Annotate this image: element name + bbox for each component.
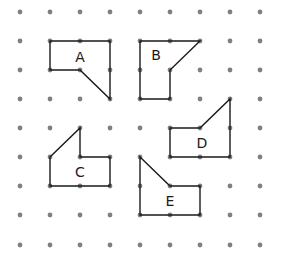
grid-dot xyxy=(258,10,263,15)
grid-dot xyxy=(228,10,233,15)
grid-dot xyxy=(138,10,143,15)
shape-label: B xyxy=(151,47,161,63)
grid-dot xyxy=(228,39,233,44)
grid-dot xyxy=(228,68,233,73)
shape-d: D xyxy=(170,99,230,157)
grid-dot xyxy=(78,97,83,102)
grid-dot xyxy=(48,213,53,218)
grid-dot xyxy=(48,126,53,131)
grid-dot xyxy=(198,10,203,15)
grid-dot xyxy=(168,10,173,15)
shape-a: A xyxy=(50,41,110,99)
grid-dot xyxy=(18,39,23,44)
grid-dot xyxy=(108,243,113,248)
grid-dot xyxy=(228,184,233,189)
grid-dot xyxy=(108,126,113,131)
shape-label: A xyxy=(75,49,85,65)
grid-dot xyxy=(258,68,263,73)
grid-dot xyxy=(258,126,263,131)
grid-dot xyxy=(18,97,23,102)
grid-dot xyxy=(18,213,23,218)
grid-dot xyxy=(108,10,113,15)
grid-dot xyxy=(48,243,53,248)
dot-grid-diagram: ABCDE xyxy=(0,0,282,272)
grid-dot xyxy=(198,97,203,102)
shape-label: E xyxy=(166,193,175,209)
grid-dot xyxy=(198,68,203,73)
grid-dot xyxy=(18,155,23,160)
grid-dot xyxy=(258,39,263,44)
shape-label: C xyxy=(75,164,85,180)
shape-outline xyxy=(140,41,200,99)
grid-dot xyxy=(168,243,173,248)
grid-dot xyxy=(78,10,83,15)
shape-label: D xyxy=(197,135,208,151)
grid-dot xyxy=(48,97,53,102)
grid-canvas: ABCDE xyxy=(0,0,282,272)
grid-dot xyxy=(258,155,263,160)
grid-dot xyxy=(18,243,23,248)
shape-b: B xyxy=(140,41,200,99)
grid-dot xyxy=(18,10,23,15)
grid-dot xyxy=(138,243,143,248)
grid-dot xyxy=(258,243,263,248)
grid-dot xyxy=(228,243,233,248)
grid-dot xyxy=(258,97,263,102)
grid-dot xyxy=(48,10,53,15)
grid-dot xyxy=(18,184,23,189)
grid-dot xyxy=(18,68,23,73)
grid-dot xyxy=(138,126,143,131)
grid-dot xyxy=(228,213,233,218)
grid-dot xyxy=(198,243,203,248)
grid-dot xyxy=(78,243,83,248)
shape-c: C xyxy=(50,128,110,186)
grid-dot xyxy=(18,126,23,131)
grid-dot xyxy=(78,213,83,218)
grid-dot xyxy=(258,184,263,189)
shape-e: E xyxy=(140,157,200,215)
grid-dot xyxy=(258,213,263,218)
grid-dot xyxy=(108,213,113,218)
